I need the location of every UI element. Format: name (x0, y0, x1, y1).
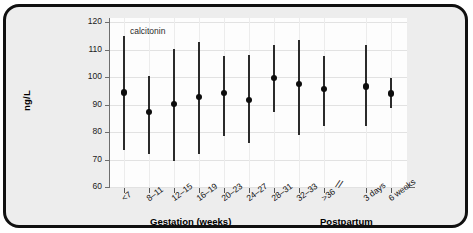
group-title-postpartum: Postpartum (320, 216, 373, 227)
y-gridline (110, 50, 407, 51)
y-tick (105, 187, 110, 188)
y-tick-label: 110 (76, 45, 102, 54)
plot-area (110, 18, 407, 188)
data-point-marker (121, 89, 127, 95)
group-title-gestation: Gestation (weeks) (150, 216, 231, 227)
y-tick (105, 132, 110, 133)
y-gridline (110, 105, 407, 106)
y-tick (105, 160, 110, 161)
series-annotation-label: calcitonin (130, 26, 165, 36)
y-tick (105, 22, 110, 23)
y-tick (105, 50, 110, 51)
x-tick-label: >36 (320, 187, 337, 202)
y-tick-label: 90 (76, 100, 102, 109)
y-gridline (110, 22, 407, 23)
figure-frame: ng/L 12011010090807060 <78–1112–1516–192… (3, 4, 468, 228)
data-point-marker (363, 83, 369, 89)
y-tick-label: 70 (76, 155, 102, 164)
range-bar (223, 56, 225, 136)
y-gridline (110, 77, 407, 78)
data-point-marker (196, 94, 202, 100)
y-tick-label: 120 (76, 17, 102, 26)
y-gridline (110, 160, 407, 161)
y-tick-label: 80 (76, 127, 102, 136)
y-tick (105, 77, 110, 78)
y-axis-line (109, 18, 110, 188)
y-tick-label: 100 (76, 72, 102, 81)
y-tick-label: 60 (76, 182, 102, 191)
y-axis-title: ng/L (21, 71, 32, 131)
y-gridline (110, 132, 407, 133)
x-tick-label: <7 (120, 190, 133, 203)
data-point-marker (388, 90, 394, 96)
y-tick (105, 105, 110, 106)
range-bar (298, 40, 300, 134)
